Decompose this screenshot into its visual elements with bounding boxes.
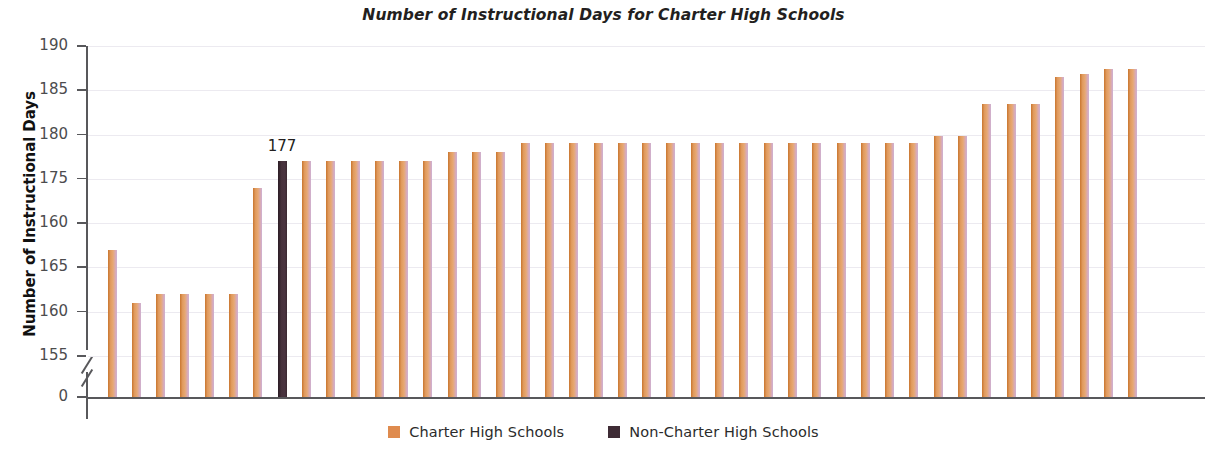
y-axis-tick-label: 180 [39,125,68,143]
bar [375,161,384,397]
y-axis-tick-label: 185 [39,80,68,98]
y-axis-tick-label: 175 [39,169,68,187]
bar [351,161,360,397]
y-axis-tick [77,222,86,224]
bar [521,143,530,397]
legend-label: Charter High Schools [409,424,564,440]
bar [1055,77,1064,397]
bar [1007,104,1016,397]
x-axis-origin-tick [86,397,88,419]
bar [1080,74,1089,397]
bar [934,136,943,397]
bar [715,143,724,397]
legend-item: Non-Charter High Schools [608,424,819,440]
plot-area [88,46,1205,397]
y-axis-tick-label: 0 [58,387,68,405]
gridline [88,90,1205,91]
chart-legend: Charter High SchoolsNon-Charter High Sch… [0,424,1207,440]
y-axis-tick [77,396,86,398]
y-axis-tick-label: 160 [39,213,68,231]
bar [1128,69,1137,397]
bar [909,143,918,397]
bar [958,136,967,397]
y-axis-tick [77,311,86,313]
bar [399,161,408,397]
bar [180,294,189,397]
bar [472,152,481,397]
bar [691,143,700,397]
y-axis-tick [77,178,86,180]
y-axis-title: Number of Instructional Days [21,34,39,394]
bar [108,250,117,397]
bar [642,143,651,397]
legend-swatch-icon [388,426,400,438]
bar [302,161,311,397]
bar [229,294,238,397]
bar [278,161,287,397]
highlighted-bar-value-label: 177 [252,137,312,155]
bar [982,104,991,397]
bar [885,143,894,397]
bar [205,294,214,397]
y-axis-tick-label: 165 [39,257,68,275]
bar [326,161,335,397]
bar [156,294,165,397]
bar [496,152,505,397]
bar [1104,69,1113,397]
y-axis-tick-label: 190 [39,36,68,54]
bar [1031,104,1040,397]
y-axis-tick [77,355,86,357]
bar [788,143,797,397]
bar [861,143,870,397]
bar [423,161,432,397]
legend-label: Non-Charter High Schools [629,424,819,440]
bar [837,143,846,397]
gridline [88,46,1205,47]
y-axis-tick-label: 155 [39,346,68,364]
y-axis-tick-label: 160 [39,302,68,320]
bar [448,152,457,397]
bar [594,143,603,397]
bar [812,143,821,397]
y-axis-tick [77,134,86,136]
y-axis-tick [77,45,86,47]
legend-swatch-icon [608,426,620,438]
y-axis-tick [77,266,86,268]
bar [132,303,141,397]
bar [253,188,262,397]
bar [739,143,748,397]
bar [666,143,675,397]
bar [545,143,554,397]
legend-item: Charter High Schools [388,424,564,440]
bar [618,143,627,397]
chart-title: Number of Instructional Days for Charter… [0,6,1207,24]
bar [569,143,578,397]
x-axis-line [86,397,1205,399]
bar [764,143,773,397]
y-axis-tick [77,89,86,91]
